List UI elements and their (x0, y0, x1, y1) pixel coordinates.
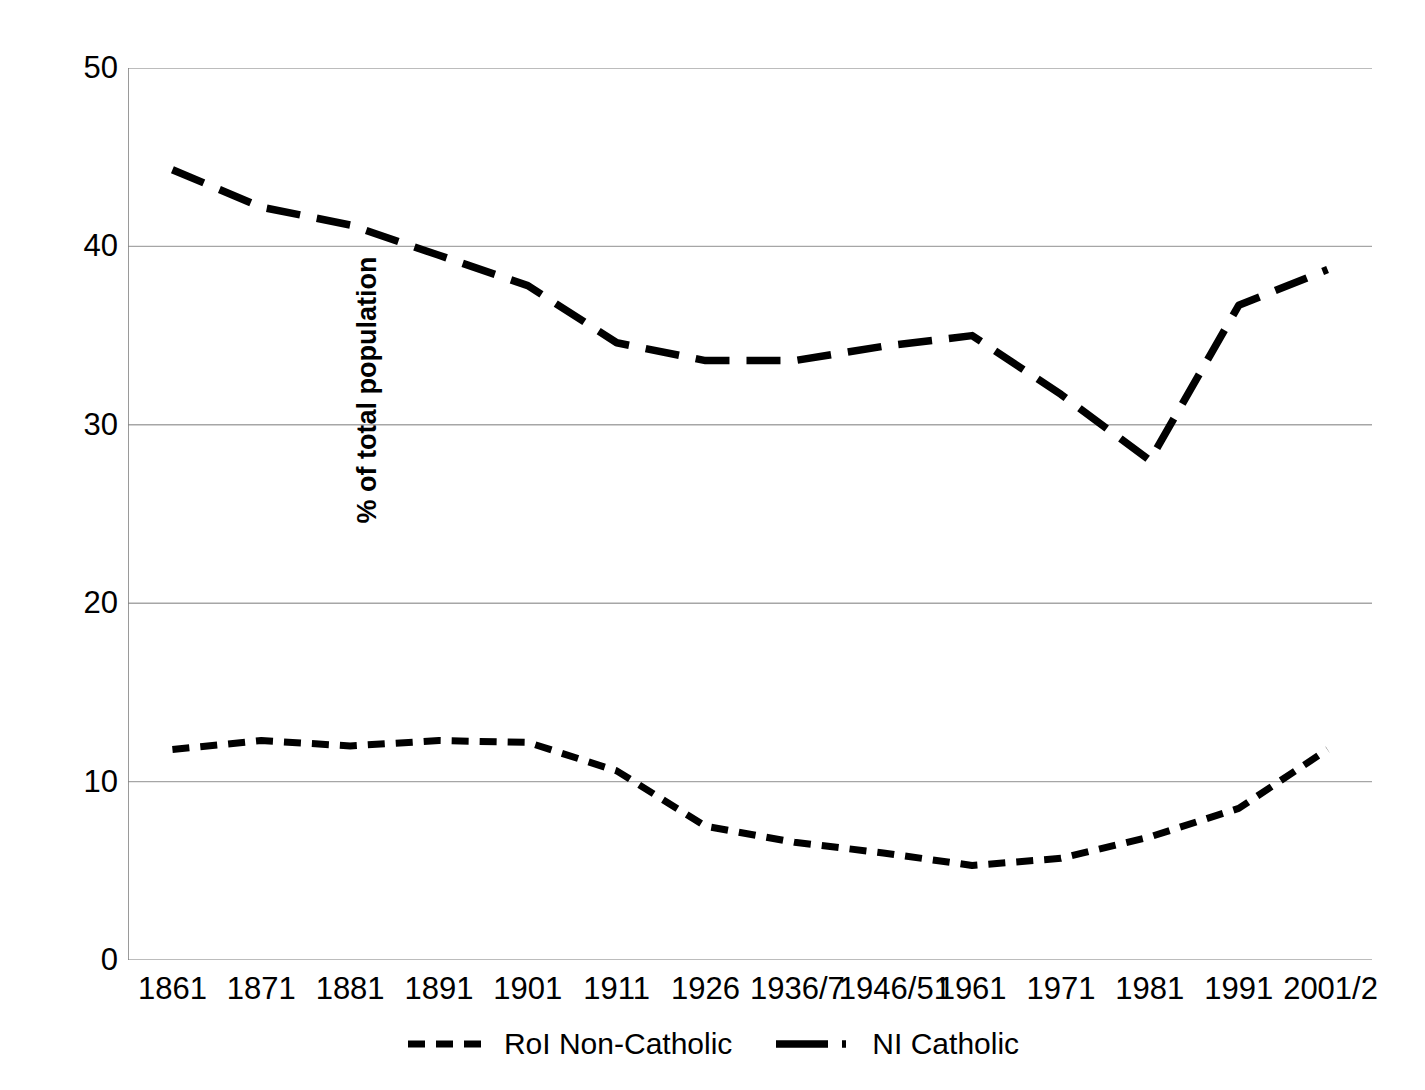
y-axis-tick-label: 30 (58, 409, 118, 440)
legend: RoI Non-CatholicNI Catholic (0, 1022, 1425, 1066)
x-axis-tick-label: 1861 (128, 972, 217, 1006)
x-axis-tick-label: 1901 (483, 972, 572, 1006)
x-axis-tick-label: 1926 (661, 972, 750, 1006)
legend-entry[interactable]: NI Catholic (774, 1028, 1019, 1060)
line-chart: % of total population 01020304050 186118… (0, 0, 1425, 1090)
legend-swatch-dash-dot-icon (774, 1035, 860, 1053)
x-axis-tick-label: 1871 (217, 972, 306, 1006)
y-axis-tick-label: 10 (58, 766, 118, 797)
plot-svg (128, 68, 1372, 960)
x-axis-tick-label: 1891 (395, 972, 484, 1006)
x-axis-tick-label: 1946/51 (839, 972, 928, 1006)
plot-area (128, 68, 1372, 960)
legend-label: RoI Non-Catholic (504, 1028, 732, 1060)
x-axis-tick-label: 1936/7 (750, 972, 839, 1006)
x-axis-tick-label: 1981 (1105, 972, 1194, 1006)
legend-entry[interactable]: RoI Non-Catholic (406, 1028, 732, 1060)
y-axis-tick-label: 50 (58, 52, 118, 83)
series-lines (172, 170, 1327, 866)
y-axis-tick-label: 0 (58, 944, 118, 975)
x-axis-tick-label: 1961 (928, 972, 1017, 1006)
y-axis-tick-label: 40 (58, 230, 118, 261)
x-axis-tick-label: 2001/2 (1283, 972, 1372, 1006)
x-axis-tick-label: 1881 (306, 972, 395, 1006)
legend-label: NI Catholic (872, 1028, 1019, 1060)
x-axis-tick-label: 1971 (1017, 972, 1106, 1006)
legend-swatch-dashed-icon (406, 1035, 492, 1053)
series-line-0 (172, 741, 1327, 866)
x-axis-tick-label: 1991 (1194, 972, 1283, 1006)
series-line-1 (172, 170, 1327, 461)
x-axis-tick-label: 1911 (572, 972, 661, 1006)
y-axis-tick-labels: 01020304050 (58, 0, 118, 1000)
x-axis-tick-labels: 18611871188118911901191119261936/71946/5… (128, 972, 1372, 1016)
y-axis-tick-label: 20 (58, 587, 118, 618)
